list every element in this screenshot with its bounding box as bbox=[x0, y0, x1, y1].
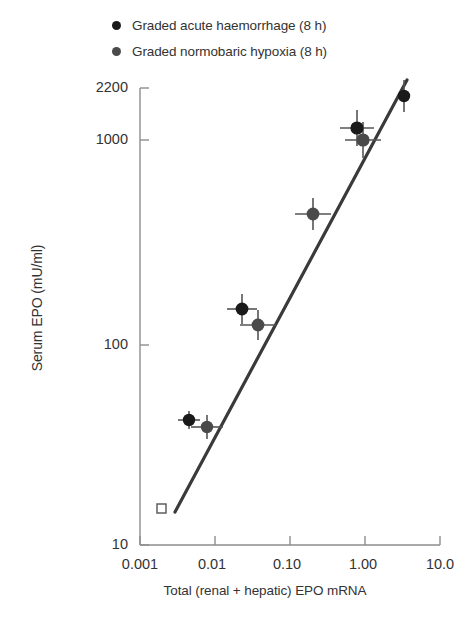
data-point bbox=[201, 421, 213, 433]
data-point bbox=[398, 90, 410, 102]
regression-line bbox=[175, 80, 407, 512]
data-point bbox=[350, 121, 363, 134]
data-point bbox=[307, 208, 320, 221]
control-baseline-marker bbox=[157, 504, 166, 513]
x-axis-ticks bbox=[140, 536, 440, 545]
axis-lines bbox=[140, 88, 440, 545]
chart-figure: Graded acute haemorrhage (8 h) Graded no… bbox=[0, 0, 476, 629]
plot-area bbox=[0, 0, 476, 629]
data-point bbox=[236, 303, 249, 316]
series-hypoxia-points bbox=[201, 133, 370, 433]
error-bars bbox=[178, 80, 404, 439]
data-point bbox=[183, 414, 195, 426]
y-axis-ticks bbox=[140, 88, 149, 545]
data-point bbox=[252, 319, 265, 332]
data-point bbox=[356, 133, 369, 146]
